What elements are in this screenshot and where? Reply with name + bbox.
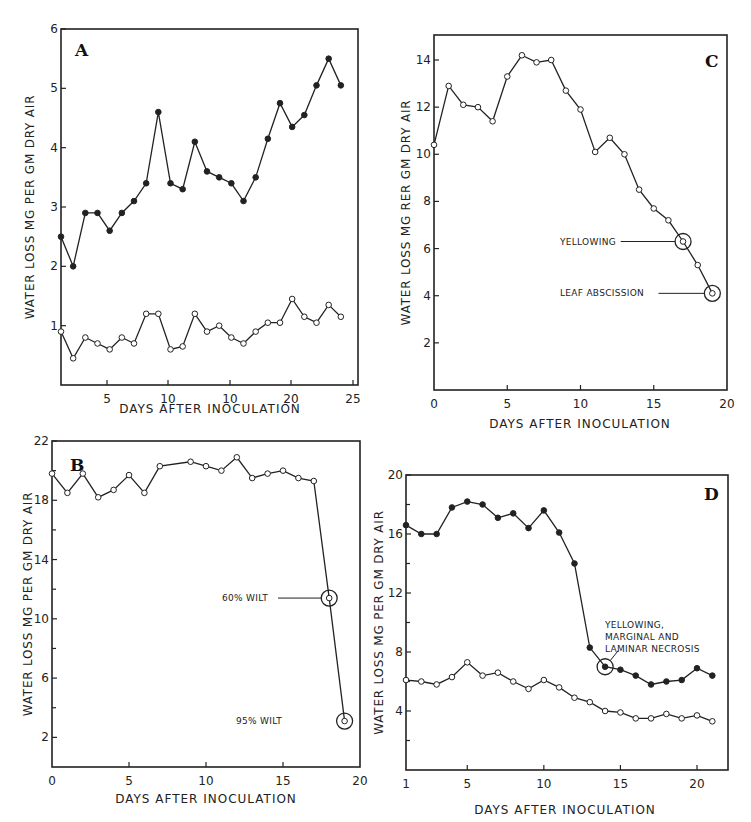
data-point [180,186,186,192]
series-line [61,59,341,267]
y-axis-title: WATER LOSS MG PER GM DRY AIR [372,510,386,735]
data-point [419,531,425,537]
y-tick-label: 12 [416,100,431,114]
data-point [241,198,247,204]
data-point [541,508,547,514]
data-point [302,112,308,118]
x-tick-label: 0 [48,774,56,788]
data-point [446,83,452,89]
x-tick-label: 0 [430,397,438,411]
annotation-label: 95% WILT [236,716,282,726]
data-point [495,515,501,521]
data-point [710,673,716,679]
y-tick-label: 2 [41,730,49,744]
annotation-label: LEAF ABSCISSION [560,288,644,298]
data-point [253,175,259,181]
y-tick-label: 4 [395,704,403,718]
data-point [403,677,409,683]
data-point [277,100,283,106]
data-point [265,320,271,326]
data-point [302,314,308,320]
series-line [434,55,712,293]
data-point [480,502,486,508]
data-point [342,718,348,724]
data-point [651,206,657,212]
data-point [156,109,162,115]
data-point [679,716,685,722]
data-point [70,356,76,362]
annotation-label: YELLOWING, [604,620,664,630]
data-point [602,708,608,714]
data-point [648,682,654,688]
y-tick-label: 6 [41,671,49,685]
y-tick-label: 3 [50,200,58,214]
data-point [648,716,654,722]
data-point [338,83,344,89]
data-point [180,344,186,350]
data-point [188,459,194,465]
x-tick-label: 5 [103,392,111,406]
data-point [403,522,409,528]
data-point [249,475,255,481]
data-point [475,104,481,110]
data-point [526,525,532,531]
data-point [480,673,486,679]
data-point [449,674,455,680]
x-tick-label: 5 [463,777,471,791]
data-point [168,347,174,353]
panel-b: 261014182205101520DAYS AFTER INOCULATION… [21,434,368,806]
data-point [680,239,686,245]
data-point [338,314,344,320]
data-point [131,341,137,347]
data-point [314,320,320,326]
annotation-label: 60% WILT [222,593,268,603]
data-point [633,673,639,679]
y-tick-label: 10 [416,147,431,161]
y-tick-label: 12 [388,586,403,600]
x-tick-label: 20 [689,777,704,791]
data-point [461,102,467,108]
data-point [95,210,101,216]
data-point [534,60,540,66]
data-point [695,262,701,268]
y-tick-label: 2 [50,259,58,273]
x-tick-label: 10 [198,774,213,788]
panel-d: 4812162015101520DAYS AFTER INOCULATIONWA… [372,468,728,817]
panel-c: 246810121405101520DAYS AFTER INOCULATION… [399,35,735,431]
x-tick-label: 5 [503,397,511,411]
data-point [216,175,222,181]
data-point [587,699,593,705]
data-point [296,475,302,481]
data-point [289,124,295,130]
y-tick-label: 18 [34,493,49,507]
x-tick-label: 10 [536,777,551,791]
x-axis-title: DAYS AFTER INOCULATION [119,402,301,416]
data-point [95,495,101,501]
data-point [111,487,117,493]
data-point [229,335,235,341]
data-point [710,291,716,297]
data-point [265,471,271,477]
y-tick-label: 16 [388,527,403,541]
y-axis-title: WATER LOSS MG PER GM DRY AIR [23,95,37,320]
data-point [679,677,685,683]
y-tick-label: 8 [423,194,431,208]
y-tick-label: 22 [34,434,49,448]
data-point [80,471,86,477]
data-point [572,695,578,701]
data-point [578,107,584,113]
x-tick-label: 25 [345,392,360,406]
data-point [203,463,209,469]
data-point [143,311,149,317]
data-point [216,323,222,329]
data-point [142,490,148,496]
data-point [119,335,125,341]
data-point [119,210,125,216]
data-point [65,490,71,496]
data-point [449,505,455,511]
data-point [204,329,210,335]
x-axis-title: DAYS AFTER INOCULATION [474,803,656,817]
data-point [464,660,470,666]
series-line [406,502,712,685]
data-point [241,341,247,347]
